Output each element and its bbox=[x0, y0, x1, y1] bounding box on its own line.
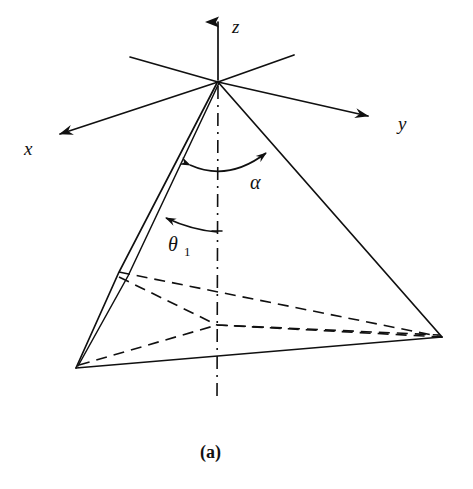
angle-alpha-label: α bbox=[250, 171, 261, 193]
cone-base-hidden-edges bbox=[79, 272, 442, 365]
axis-y-line bbox=[218, 82, 368, 116]
axis-z-label: z bbox=[231, 16, 240, 37]
axis-z-below-origin bbox=[217, 86, 218, 402]
angle-theta1-arc bbox=[166, 218, 217, 232]
axis-y-negative-line bbox=[130, 57, 218, 82]
angle-alpha-arc bbox=[190, 153, 266, 171]
angle-alpha-group: α bbox=[190, 153, 266, 193]
axis-y-group: y bbox=[130, 57, 407, 134]
axis-x-group: x bbox=[23, 55, 294, 159]
axis-x-line bbox=[218, 55, 294, 82]
cone-generator-left-inner bbox=[78, 83, 219, 366]
angle-theta1-subscript: 1 bbox=[184, 244, 191, 259]
cone-lateral-edges bbox=[76, 82, 442, 368]
axis-z-group: z bbox=[218, 16, 240, 80]
angle-theta1-label: θ bbox=[168, 233, 178, 255]
axis-x-label: x bbox=[23, 138, 33, 159]
cone-diagram-svg: z x y α θ 1 (a) bbox=[0, 0, 473, 489]
axis-y-label: y bbox=[396, 113, 407, 134]
cone-generator-left-outer bbox=[76, 83, 217, 368]
base-edge-front-left bbox=[79, 325, 217, 365]
cone-base-front-rim bbox=[76, 337, 442, 368]
angle-theta1-group: θ 1 bbox=[166, 218, 222, 259]
figure-container: z x y α θ 1 (a) bbox=[0, 0, 473, 489]
figure-caption: (a) bbox=[200, 442, 221, 463]
